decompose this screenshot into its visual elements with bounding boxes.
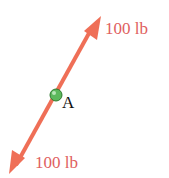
point-label: A — [62, 94, 74, 111]
point-highlight-icon — [52, 91, 56, 95]
point-a-icon — [50, 89, 62, 101]
force-label-bottom: 100 lb — [35, 154, 78, 171]
force-label-top: 100 lb — [105, 20, 148, 37]
